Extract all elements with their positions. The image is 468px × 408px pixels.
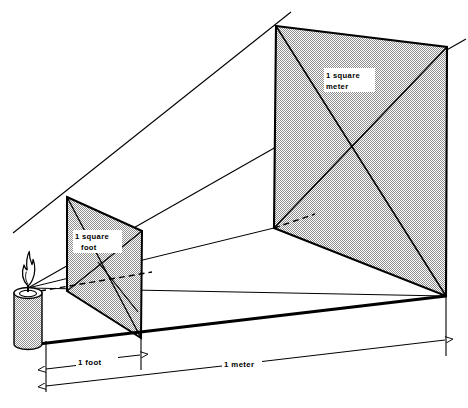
flame <box>23 252 35 287</box>
callout-square-meter: 1 square meter <box>324 68 375 92</box>
one-square-foot-plane <box>67 197 142 338</box>
candle-body <box>14 293 42 350</box>
light-ray-lower-back <box>28 228 274 288</box>
callout-square-meter-line1: 1 square <box>326 71 360 80</box>
inverse-square-law-diagram: 1 foot 1 meter 1 square foot 1 square me… <box>0 0 468 408</box>
dimension-meter-label: 1 meter <box>224 360 255 369</box>
meter-arrow-right <box>262 340 445 362</box>
callout-square-foot-line2: foot <box>81 243 97 252</box>
diagram-canvas: 1 foot 1 meter 1 square foot 1 square me… <box>0 0 468 408</box>
callout-square-foot-line1: 1 square <box>75 232 109 241</box>
callout-square-meter-line2: meter <box>326 82 348 91</box>
light-ray-upper-left <box>13 12 291 233</box>
foot-arrow-left <box>46 366 76 370</box>
foot-arrow-right <box>118 355 140 358</box>
dimension-foot-label: 1 foot <box>78 358 102 367</box>
one-square-meter-plane <box>274 26 447 296</box>
meter-arrow-left <box>46 366 222 386</box>
candle <box>14 252 42 350</box>
